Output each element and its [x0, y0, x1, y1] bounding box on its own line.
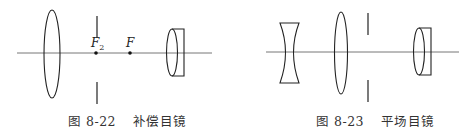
caption-prefix: 图	[68, 114, 82, 129]
figure-flat-field-eyepiece: 图 8-23 平场目镜	[240, 0, 475, 137]
focal-point-f	[128, 51, 132, 55]
figure-caption-left: 图 8-22 补偿目镜	[68, 111, 187, 130]
caption-prefix: 图	[316, 114, 330, 129]
field-lens-icon	[335, 12, 348, 94]
eye-lens-icon	[167, 29, 185, 76]
concave-lens-icon	[280, 23, 299, 83]
figure-compensating-eyepiece: F2 F 图 8-22 补偿目镜	[0, 0, 240, 137]
field-lens-icon	[44, 10, 60, 98]
label-f2-subscript: 2	[99, 43, 104, 52]
figure-title: 平场目镜	[381, 114, 435, 129]
figure-number: 8-22	[86, 114, 116, 129]
label-f: F	[126, 36, 134, 50]
figure-number: 8-23	[334, 114, 364, 129]
figure-caption-right: 图 8-23 平场目镜	[316, 111, 435, 130]
eye-lens-icon	[414, 28, 432, 75]
figure-title: 补偿目镜	[133, 114, 187, 129]
label-f2: F2	[91, 36, 104, 52]
